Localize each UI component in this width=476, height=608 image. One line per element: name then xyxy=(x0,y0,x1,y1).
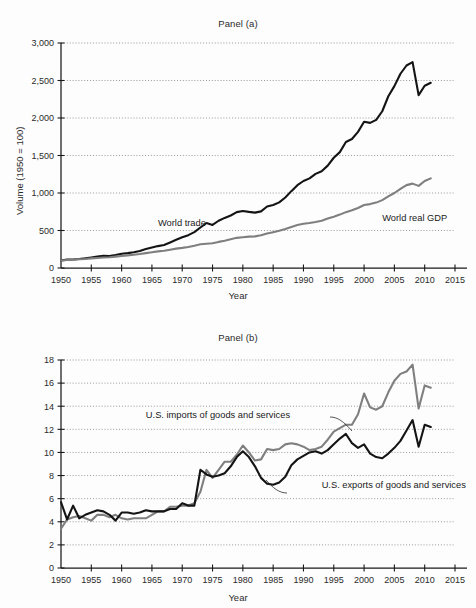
y-tick-label: 8 xyxy=(49,471,54,481)
x-tick-label: 2000 xyxy=(354,575,374,585)
x-tick-label: 1995 xyxy=(324,275,344,285)
y-tick-label: 2 xyxy=(49,540,54,550)
y-tick-label: 2,500 xyxy=(31,76,54,86)
series-label-world-trade: World trade xyxy=(158,218,206,228)
x-tick-label: 1950 xyxy=(51,275,71,285)
x-tick-label: 1955 xyxy=(81,575,101,585)
x-tick-label: 1980 xyxy=(233,575,253,585)
panel-b: Panel (b) Percent of GDP Year 0246810121… xyxy=(0,304,476,608)
y-tick-label: 4 xyxy=(49,517,54,527)
y-tick-label: 6 xyxy=(49,494,54,504)
x-tick-label: 2010 xyxy=(415,575,435,585)
series-line-u-s-exports-of-goods-and-services xyxy=(61,420,431,521)
x-tick-label: 1980 xyxy=(233,275,253,285)
y-tick-label: 14 xyxy=(44,402,54,412)
x-tick-label: 1995 xyxy=(324,575,344,585)
y-tick-label: 3,000 xyxy=(31,38,54,48)
panel-a: Panel (a) Volume (1950 = 100) Year 05001… xyxy=(0,0,476,304)
y-tick-label: 2,000 xyxy=(31,113,54,123)
x-tick-label: 2005 xyxy=(384,275,404,285)
y-tick-label: 18 xyxy=(44,355,54,365)
x-tick-label: 1955 xyxy=(81,275,101,285)
x-tick-label: 1990 xyxy=(293,275,313,285)
y-tick-label: 0 xyxy=(49,563,54,573)
y-tick-label: 0 xyxy=(49,263,54,273)
y-tick-label: 500 xyxy=(39,226,54,236)
x-tick-label: 1990 xyxy=(293,575,313,585)
y-tick-label: 1,500 xyxy=(31,151,54,161)
y-tick-label: 12 xyxy=(44,425,54,435)
series-line-world-real-gdp xyxy=(61,178,431,260)
x-tick-label: 1965 xyxy=(142,275,162,285)
x-tick-label: 1970 xyxy=(172,575,192,585)
x-tick-label: 1970 xyxy=(172,275,192,285)
series-line-u-s-imports-of-goods-and-services xyxy=(61,365,431,529)
x-tick-label: 1965 xyxy=(142,575,162,585)
x-tick-label: 1975 xyxy=(203,275,223,285)
exports-leader-line xyxy=(266,480,287,493)
panel-b-plot: 0246810121416181950195519601965197019751… xyxy=(0,304,476,608)
figure-canvas: Panel (a) Volume (1950 = 100) Year 05001… xyxy=(0,0,476,608)
y-tick-label: 1,000 xyxy=(31,188,54,198)
x-tick-label: 2015 xyxy=(445,275,465,285)
y-tick-label: 16 xyxy=(44,378,54,388)
x-tick-label: 2000 xyxy=(354,275,374,285)
series-label-world-real-gdp: World real GDP xyxy=(382,213,447,223)
x-tick-label: 1950 xyxy=(51,575,71,585)
series-label-u-s-imports-of-goods-and-services: U.S. imports of goods and services xyxy=(146,410,291,420)
y-tick-label: 10 xyxy=(44,448,54,458)
x-tick-label: 1985 xyxy=(263,275,283,285)
x-tick-label: 1975 xyxy=(203,575,223,585)
x-tick-label: 2005 xyxy=(384,575,404,585)
x-tick-label: 1985 xyxy=(263,575,283,585)
series-label-u-s-exports-of-goods-and-services: U.S. exports of goods and services xyxy=(322,480,467,490)
x-tick-label: 1960 xyxy=(112,275,132,285)
x-tick-label: 2010 xyxy=(415,275,435,285)
x-tick-label: 2015 xyxy=(445,575,465,585)
panel-a-plot: 05001,0001,5002,0002,5003,00019501955196… xyxy=(0,0,476,304)
x-tick-label: 1960 xyxy=(112,575,132,585)
